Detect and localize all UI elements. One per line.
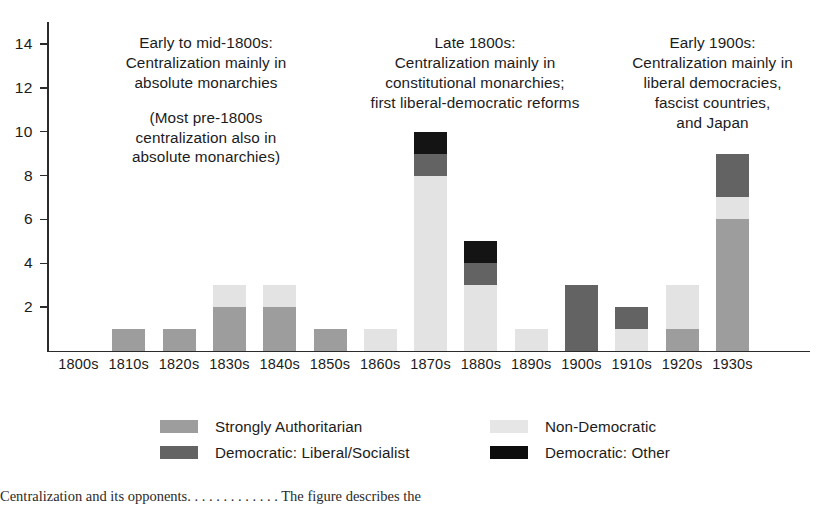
bar-1880s[interactable] [464, 241, 497, 351]
bar-segment-1830s-nondem [213, 285, 246, 307]
y-tick-14 [40, 43, 47, 45]
legend-label: Democratic: Liberal/Socialist [215, 444, 410, 461]
annotation-line: (Most pre-1800s [86, 108, 326, 128]
annotation-line: Early to mid-1800s: [86, 33, 326, 53]
x-axis-label-1910s: 1910s [603, 356, 661, 372]
bar-1850s[interactable] [314, 329, 347, 351]
bar-segment-1830s-auth [213, 307, 246, 351]
y-tick-12 [40, 87, 47, 89]
bar-segment-1870s-other [414, 132, 447, 154]
chart-figure: 1800s1810s1820s1830s1840s1850s1860s1870s… [0, 0, 828, 506]
y-tick-10 [40, 131, 47, 133]
annotation-line: Early 1900s: [600, 33, 825, 53]
bar-segment-1920s-nondem [666, 285, 699, 329]
page-body-text: Centralization and its opponents. . . . … [0, 488, 828, 506]
bar-1920s[interactable] [666, 285, 699, 351]
bar-segment-1880s-libsoc [464, 263, 497, 285]
bar-segment-1930s-libsoc [716, 154, 749, 198]
y-axis-label-10: 10 [0, 124, 33, 140]
annotation-spacer [86, 93, 326, 108]
x-axis-label-1810s: 1810s [100, 356, 158, 372]
bar-segment-1890s-nondem [515, 329, 548, 351]
y-tick-8 [40, 175, 47, 177]
x-axis-label-1920s: 1920s [653, 356, 711, 372]
annotation-line: Centralization mainly in [330, 53, 620, 73]
legend-item-other[interactable]: Democratic: Other [490, 444, 790, 461]
bar-segment-1920s-auth [666, 329, 699, 351]
bar-segment-1930s-auth [716, 219, 749, 351]
annotation-line: Centralization mainly in [600, 53, 825, 73]
x-axis-label-1850s: 1850s [301, 356, 359, 372]
legend-item-nondem[interactable]: Non-Democratic [490, 418, 790, 435]
bar-1910s[interactable] [615, 307, 648, 351]
x-axis-label-1880s: 1880s [452, 356, 510, 372]
legend-swatch-auth [160, 420, 198, 433]
bar-segment-1880s-nondem [464, 285, 497, 351]
legend-swatch-libsoc [160, 446, 198, 459]
annotation-line: Centralization mainly in [86, 53, 326, 73]
y-axis-label-4: 4 [0, 255, 33, 271]
bar-segment-1860s-nondem [364, 329, 397, 351]
bar-1860s[interactable] [364, 329, 397, 351]
legend-label: Strongly Authoritarian [215, 418, 362, 435]
annotation-line: absolute monarchies) [86, 147, 326, 167]
x-axis-label-1820s: 1820s [150, 356, 208, 372]
bar-segment-1840s-auth [263, 307, 296, 351]
bar-1830s[interactable] [213, 285, 246, 351]
y-axis-label-8: 8 [0, 168, 33, 184]
legend-swatch-nondem [490, 420, 528, 433]
bar-segment-1900s-libsoc [565, 285, 598, 351]
bar-segment-1820s-auth [163, 329, 196, 351]
bar-segment-1840s-nondem [263, 285, 296, 307]
y-axis-label-2: 2 [0, 299, 33, 315]
legend-item-libsoc[interactable]: Democratic: Liberal/Socialist [160, 444, 490, 461]
bar-segment-1870s-libsoc [414, 154, 447, 176]
annotation-line: absolute monarchies [86, 73, 326, 93]
bar-1810s[interactable] [112, 329, 145, 351]
x-axis-label-1800s: 1800s [50, 356, 108, 372]
bar-1870s[interactable] [414, 132, 447, 351]
bar-segment-1910s-nondem [615, 329, 648, 351]
bar-segment-1930s-nondem [716, 197, 749, 219]
y-tick-2 [40, 306, 47, 308]
annotation-line: centralization also in [86, 128, 326, 148]
bar-1900s[interactable] [565, 285, 598, 351]
annotation-line: and Japan [600, 113, 825, 133]
annotation-late-1800s: Late 1800s:Centralization mainly inconst… [330, 33, 620, 113]
bar-segment-1870s-nondem [414, 176, 447, 351]
x-axis-label-1930s: 1930s [703, 356, 761, 372]
legend: Strongly AuthoritarianNon-DemocraticDemo… [160, 418, 760, 461]
bar-1840s[interactable] [263, 285, 296, 351]
x-axis-label-1840s: 1840s [251, 356, 309, 372]
annotation-early-1900s: Early 1900s:Centralization mainly inlibe… [600, 33, 825, 132]
legend-label: Non-Democratic [545, 418, 656, 435]
x-axis-label-1860s: 1860s [351, 356, 409, 372]
annotation-line: constitutional monarchies; [330, 73, 620, 93]
y-axis-label-12: 12 [0, 80, 33, 96]
x-axis-label-1830s: 1830s [200, 356, 258, 372]
bar-segment-1810s-auth [112, 329, 145, 351]
bar-segment-1880s-other [464, 241, 497, 263]
annotation-early-to-mid-1800s: Early to mid-1800s:Centralization mainly… [86, 33, 326, 167]
x-axis-label-1900s: 1900s [553, 356, 611, 372]
bar-1820s[interactable] [163, 329, 196, 351]
legend-label: Democratic: Other [545, 444, 670, 461]
annotation-line: fascist countries, [600, 93, 825, 113]
y-axis-label-6: 6 [0, 211, 33, 227]
annotation-line: first liberal-democratic reforms [330, 93, 620, 113]
annotation-line: Late 1800s: [330, 33, 620, 53]
bar-segment-1910s-libsoc [615, 307, 648, 329]
y-tick-4 [40, 263, 47, 265]
y-axis-label-14: 14 [0, 36, 33, 52]
y-tick-6 [40, 219, 47, 221]
legend-item-auth[interactable]: Strongly Authoritarian [160, 418, 490, 435]
x-axis-label-1890s: 1890s [502, 356, 560, 372]
bar-segment-1850s-auth [314, 329, 347, 351]
bar-1890s[interactable] [515, 329, 548, 351]
legend-swatch-other [490, 446, 528, 459]
annotation-line: liberal democracies, [600, 73, 825, 93]
bar-1930s[interactable] [716, 154, 749, 351]
x-axis-label-1870s: 1870s [402, 356, 460, 372]
